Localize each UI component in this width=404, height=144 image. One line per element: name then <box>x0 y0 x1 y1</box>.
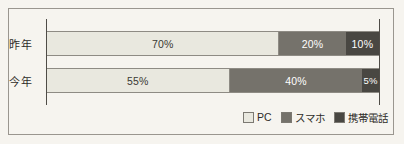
legend-swatch-smartphone-icon <box>281 112 292 123</box>
bar-segment-this-year-mobile-phone: 5% <box>362 68 379 93</box>
plot-area: 70% 20% 10% 55% 40% 5% <box>46 19 380 105</box>
legend-item-mobile-phone: 携帯電話 <box>334 110 388 125</box>
chart-legend: PC スマホ 携帯電話 <box>243 109 388 125</box>
legend-label-mobile-phone: 携帯電話 <box>348 110 388 125</box>
bar-segment-last-year-pc: 70% <box>47 31 279 56</box>
bar-segment-last-year-smartphone: 20% <box>279 31 345 56</box>
bar-segment-this-year-smartphone: 40% <box>230 68 363 93</box>
bar-segment-last-year-mobile-phone: 10% <box>346 31 379 56</box>
legend-item-smartphone: スマホ <box>281 110 325 125</box>
category-label-last-year: 昨年 <box>0 36 42 52</box>
category-label-this-year: 今年 <box>0 73 42 89</box>
plot-right-border-line <box>379 19 380 105</box>
bar-segment-this-year-pc: 55% <box>47 68 230 93</box>
legend-swatch-pc-icon <box>243 112 254 123</box>
legend-label-pc: PC <box>257 111 272 123</box>
legend-item-pc: PC <box>243 111 272 123</box>
legend-label-smartphone: スマホ <box>295 110 325 125</box>
bar-row-last-year: 70% 20% 10% <box>47 31 379 56</box>
chart-figure: 昨年 今年 70% 20% 10% 55% 40% 5% PC スマホ 携帯電話 <box>0 0 404 144</box>
bar-row-this-year: 55% 40% 5% <box>47 68 379 93</box>
legend-swatch-mobile-phone-icon <box>334 112 345 123</box>
